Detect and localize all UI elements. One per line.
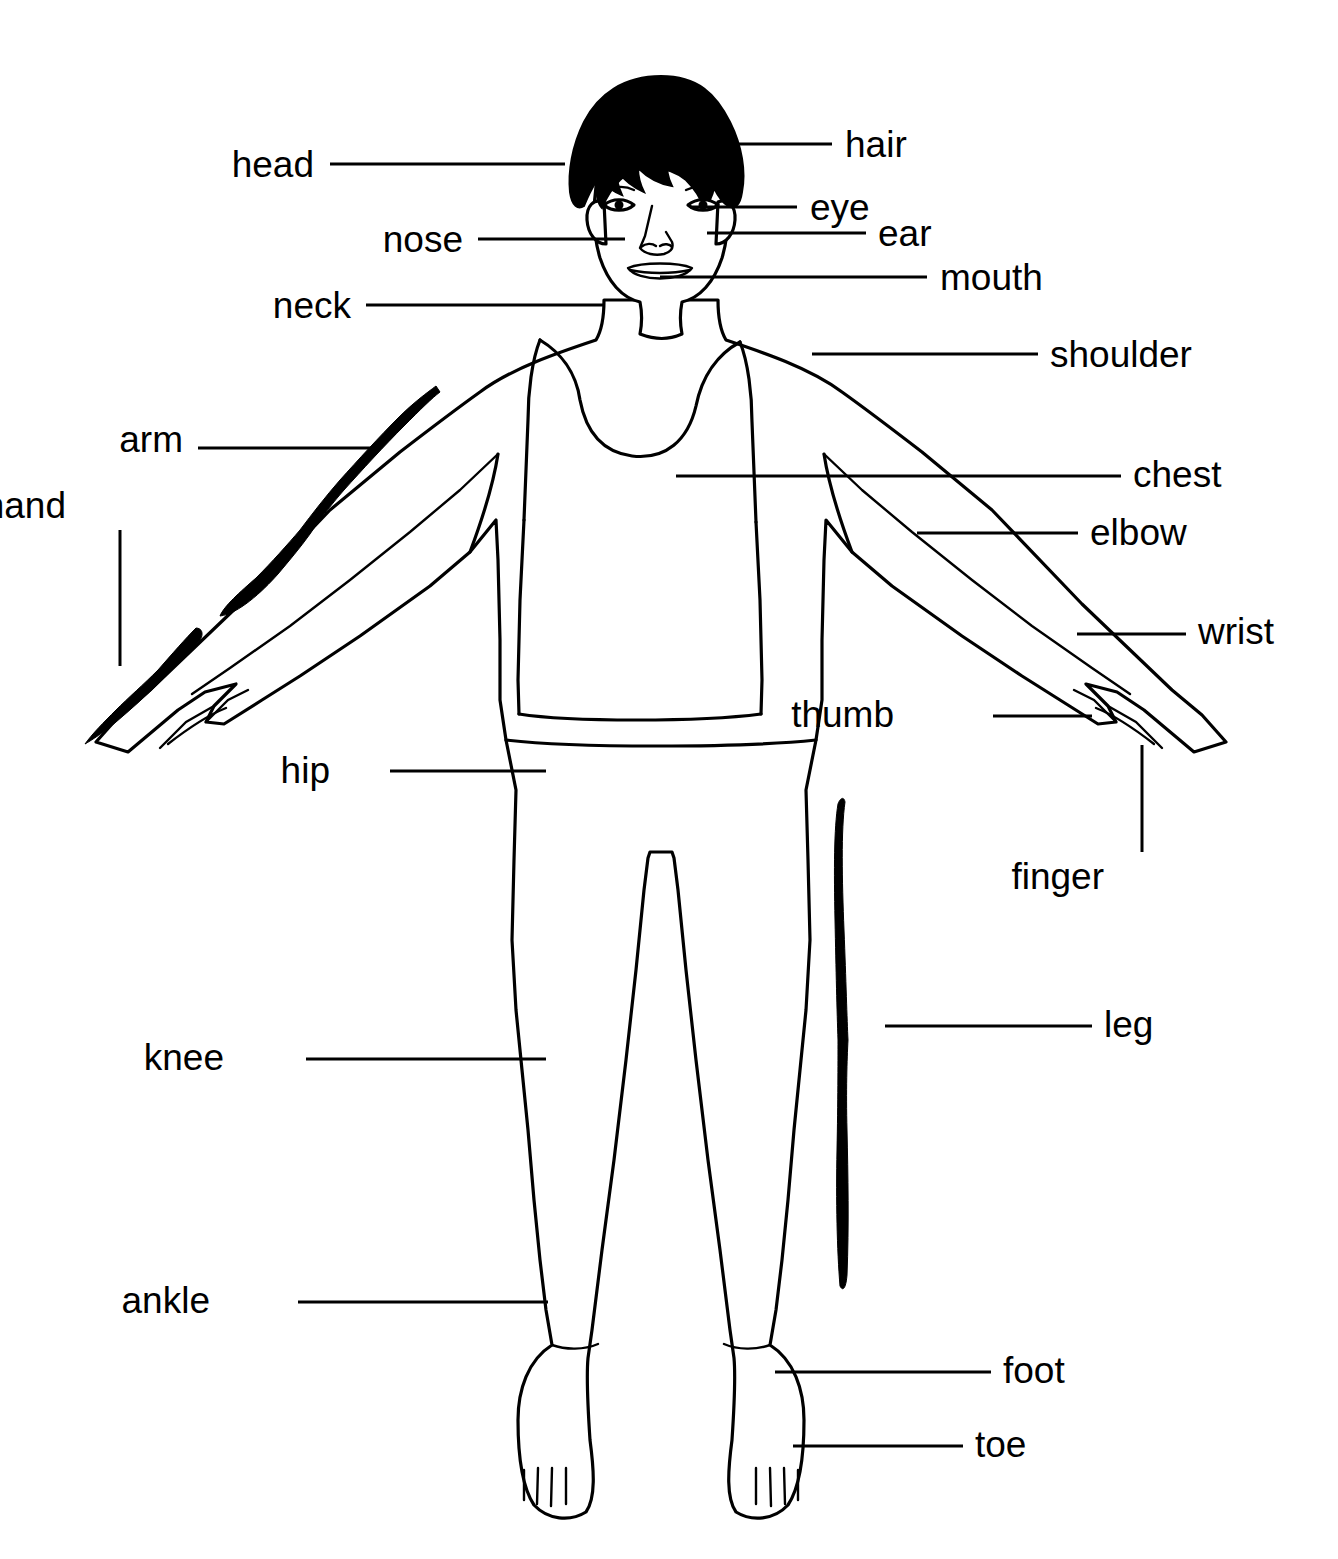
label-elbow[interactable]: elbow — [1090, 514, 1187, 551]
label-leg[interactable]: leg — [1104, 1006, 1153, 1043]
label-knee[interactable]: knee — [144, 1039, 224, 1076]
human-figure-illustration — [0, 0, 1338, 1559]
label-hand[interactable]: hand — [0, 487, 66, 524]
label-neck[interactable]: neck — [273, 287, 351, 324]
label-shoulder[interactable]: shoulder — [1050, 336, 1192, 373]
label-hair[interactable]: hair — [845, 126, 907, 163]
label-finger[interactable]: finger — [1011, 858, 1104, 895]
label-mouth[interactable]: mouth — [940, 259, 1043, 296]
label-toe[interactable]: toe — [975, 1426, 1026, 1463]
eye-right — [604, 200, 634, 211]
label-chest[interactable]: chest — [1133, 456, 1221, 493]
label-ankle[interactable]: ankle — [122, 1282, 210, 1319]
label-hip[interactable]: hip — [281, 752, 330, 789]
label-head[interactable]: head — [232, 146, 314, 183]
label-wrist[interactable]: wrist — [1198, 613, 1274, 650]
label-eye[interactable]: eye — [810, 189, 870, 226]
label-thumb[interactable]: thumb — [791, 696, 894, 733]
leg-highlight-mark — [834, 798, 848, 1288]
body-parts-diagram: headhaireyeearnosemouthneckshoulderarmch… — [0, 0, 1338, 1559]
label-arm[interactable]: arm — [119, 421, 183, 458]
torso-and-legs-shape — [96, 300, 1226, 1518]
label-foot[interactable]: foot — [1003, 1352, 1065, 1389]
label-nose[interactable]: nose — [383, 221, 463, 258]
eye-left — [688, 200, 718, 211]
label-ear[interactable]: ear — [878, 215, 931, 252]
figure-outline — [96, 300, 1226, 1518]
